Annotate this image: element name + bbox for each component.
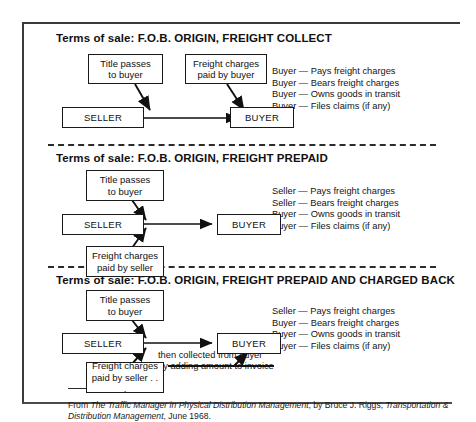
figure-frame: Terms of sale: F.O.B. ORIGIN, FREIGHT CO…: [22, 22, 460, 404]
consequence-item: Seller — Pays freight charges: [272, 186, 400, 198]
consequence-item: Buyer — Pays freight charges: [272, 66, 400, 78]
node-label: Title passes to buyer: [100, 294, 150, 317]
node-label: BUYER: [232, 219, 266, 231]
node-seller: SELLER: [62, 214, 144, 235]
source-note: From The Traffic Manager in Physical Dis…: [68, 400, 472, 422]
node-label: Freight charges paid by buyer: [193, 58, 259, 81]
node-freight-charges: Freight charges paid by buyer: [185, 54, 267, 84]
node-label: BUYER: [245, 112, 279, 124]
source-prefix: From: [68, 400, 90, 410]
node-label: SELLER: [84, 219, 122, 231]
section-freight-prepaid: Terms of sale: F.O.B. ORIGIN, FREIGHT PR…: [22, 144, 460, 266]
node-label: Freight charges paid by seller . . .: [90, 360, 160, 395]
node-title-passes: Title passes to buyer: [86, 170, 164, 201]
node-label: Freight charges paid by seller: [92, 250, 158, 273]
consequence-item: Seller — Pays freight charges: [272, 306, 400, 318]
node-label: Title passes to buyer: [100, 174, 150, 197]
node-label: SELLER: [84, 112, 122, 124]
node-title-passes: Title passes to buyer: [86, 290, 164, 321]
consequence-item: Buyer — Files claims (if any): [272, 341, 400, 353]
consequence-item: Buyer — Owns goods in transit: [272, 209, 400, 221]
consequence-list-freight-prepaid: Seller — Pays freight charges Seller — B…: [272, 186, 400, 232]
consequence-item: Seller — Bears freight charges: [272, 198, 400, 210]
consequence-item: Buyer — Files claims (if any): [272, 221, 400, 233]
node-buyer: BUYER: [230, 107, 294, 128]
node-seller: SELLER: [62, 333, 144, 354]
node-label: BUYER: [232, 338, 266, 350]
diagram-freight-collect: Title passes to buyer Freight charges pa…: [22, 22, 292, 144]
source-author: , by Bruce J. Riggs,: [309, 400, 386, 410]
node-label: SELLER: [84, 338, 122, 350]
diagram-freight-prepaid-charged-back: Title passes to buyer SELLER Freight cha…: [22, 266, 292, 376]
consequence-list-freight-collect: Buyer — Pays freight charges Buyer — Bea…: [272, 66, 400, 112]
consequence-item: Buyer — Owns goods in transit: [272, 329, 400, 341]
source-date: , June 1968.: [164, 411, 211, 421]
node-label: Title passes to buyer: [100, 58, 150, 81]
node-seller: SELLER: [62, 107, 144, 128]
node-buyer: BUYER: [217, 214, 281, 235]
node-buyer: BUYER: [217, 333, 281, 354]
node-freight-charges: Freight charges paid by seller: [86, 246, 164, 277]
node-freight-charges: Freight charges paid by seller . . .: [86, 362, 164, 393]
diagram-freight-prepaid: Title passes to buyer SELLER Freight cha…: [22, 144, 292, 266]
source-work-title: The Traffic Manager in Physical Distribu…: [90, 400, 308, 410]
consequence-list-freight-prepaid-charged-back: Seller — Pays freight charges Buyer — Be…: [272, 306, 400, 352]
consequence-item: Buyer — Bears freight charges: [272, 78, 400, 90]
node-title-passes: Title passes to buyer: [88, 54, 163, 84]
section-freight-collect: Terms of sale: F.O.B. ORIGIN, FREIGHT CO…: [22, 22, 460, 144]
consequence-item: Buyer — Bears freight charges: [272, 318, 400, 330]
section-freight-prepaid-charged-back: Terms of sale: F.O.B. ORIGIN, FREIGHT PR…: [22, 266, 460, 376]
consequence-item: Buyer — Owns goods in transit: [272, 89, 400, 101]
